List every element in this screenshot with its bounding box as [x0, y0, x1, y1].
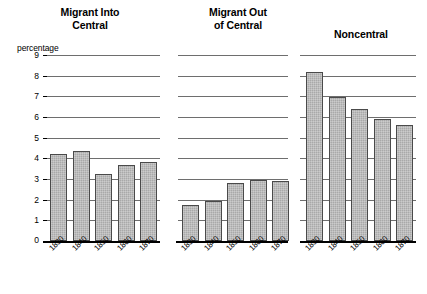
y-tick-mark [43, 138, 47, 139]
gridline [178, 179, 288, 180]
y-tick-mark [43, 200, 47, 201]
y-tick-mark [43, 96, 47, 97]
y-tick-mark [43, 117, 47, 118]
y-tick-mark [43, 179, 47, 180]
bar [306, 72, 323, 241]
plot-area: 18301840185018601870 [178, 0, 298, 294]
bar [396, 125, 413, 241]
y-tick-label: 9 [29, 51, 39, 60]
gridline [178, 158, 288, 159]
plot-area: 123456789018301840185018601870 [20, 0, 160, 294]
gridline [178, 138, 288, 139]
bar [351, 109, 368, 241]
y-tick-label: 2 [29, 196, 39, 205]
gridline [178, 76, 288, 77]
panel-noncentral: Noncentral 18301840185018601870 [300, 0, 422, 294]
bar [272, 181, 289, 241]
gridline [46, 138, 160, 139]
y-tick-label: 4 [29, 154, 39, 163]
gridline [178, 96, 288, 97]
gridline [300, 55, 416, 56]
y-tick-label: 8 [29, 72, 39, 81]
y-tick-mark [43, 76, 47, 77]
chart-figure: percentage Migrant Into Central 12345678… [0, 0, 427, 294]
y-tick-label: 0 [29, 236, 39, 245]
gridline [46, 76, 160, 77]
gridline [46, 117, 160, 118]
y-tick-mark [43, 220, 47, 221]
bar [118, 165, 135, 241]
bar [95, 174, 112, 241]
gridline [46, 55, 160, 56]
y-tick-label: 3 [29, 175, 39, 184]
bar [140, 162, 157, 241]
bar [227, 183, 244, 241]
gridline [178, 117, 288, 118]
bar [329, 97, 346, 241]
y-tick-mark [43, 158, 47, 159]
gridline [178, 55, 288, 56]
y-tick-mark [43, 55, 47, 56]
y-tick-label: 5 [29, 134, 39, 143]
bar [374, 119, 391, 241]
y-tick-label: 7 [29, 92, 39, 101]
gridline [46, 96, 160, 97]
y-tick-label: 1 [29, 216, 39, 225]
plot-area: 18301840185018601870 [300, 0, 422, 294]
panel-migrant-into-central: Migrant Into Central 1234567890183018401… [20, 0, 160, 294]
panel-migrant-out-of-central: Migrant Out of Central 18301840185018601… [178, 0, 298, 294]
bar [73, 151, 90, 241]
bar [50, 154, 67, 241]
bar [250, 180, 267, 241]
y-tick-label: 6 [29, 113, 39, 122]
